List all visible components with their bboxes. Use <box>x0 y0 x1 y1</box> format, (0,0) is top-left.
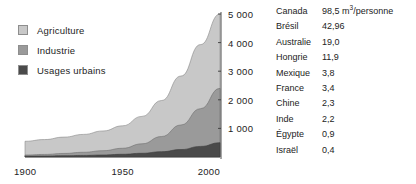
y-axis-label-1000: 1 000 <box>228 123 253 134</box>
figure-root: Agriculture Industrie Usages urbains 1 0… <box>0 0 416 184</box>
legend-item-industrie: Industrie <box>18 42 106 58</box>
table-row: Hongrie11,9 <box>276 52 416 67</box>
legend-label-agriculture: Agriculture <box>37 25 85 36</box>
y-axis-label-4000: 4 000 <box>228 37 253 48</box>
table-cell-value: 42,96 <box>322 21 345 31</box>
table-cell-value: 0,9 <box>322 129 335 139</box>
table-cell-value: 11,9 <box>322 52 339 62</box>
table-cell-country: Hongrie <box>276 52 322 62</box>
table-cell-country: France <box>276 83 322 93</box>
table-cell-value: 0,4 <box>322 145 335 155</box>
y-axis-label-2000: 2 000 <box>228 94 253 105</box>
legend-swatch-usages-urbains <box>18 65 28 75</box>
legend-label-usages-urbains: Usages urbains <box>37 65 106 76</box>
y-axis-label-3000: 3 000 <box>228 66 253 77</box>
table-cell-country: Inde <box>276 114 322 124</box>
chart-legend: Agriculture Industrie Usages urbains <box>18 22 106 82</box>
table-row: Australie19,0 <box>276 37 416 52</box>
x-axis-label-2000: 2000 <box>198 166 220 177</box>
table-row: Canada98,5 m3/personne <box>276 6 416 21</box>
legend-swatch-industrie <box>18 45 28 55</box>
legend-item-agriculture: Agriculture <box>18 22 106 38</box>
x-axis-label-1900: 1900 <box>14 166 36 177</box>
table-cell-value: 19,0 <box>322 37 340 47</box>
table-cell-value: 2,3 <box>322 98 335 108</box>
x-axis-label-1950: 1950 <box>112 166 134 177</box>
table-row: Mexique3,8 <box>276 68 416 83</box>
y-axis-label-5000: 5 000 <box>228 9 253 20</box>
table-cell-country: Mexique <box>276 68 322 78</box>
table-row: Chine2,3 <box>276 98 416 113</box>
table-cell-country: Égypte <box>276 129 322 139</box>
table-cell-country: Canada <box>276 6 322 16</box>
table-cell-value: 3,8 <box>322 68 335 78</box>
table-row: France3,4 <box>276 83 416 98</box>
table-cell-value: 3,4 <box>322 83 335 93</box>
table-cell-country: Chine <box>276 98 322 108</box>
country-water-use-table: Canada98,5 m3/personneBrésil42,96Austral… <box>276 6 416 160</box>
legend-label-industrie: Industrie <box>37 45 75 56</box>
table-row: Brésil42,96 <box>276 21 416 36</box>
table-cell-value: 98,5 m3/personne <box>322 6 393 16</box>
table-cell-value: 2,2 <box>322 114 335 124</box>
stacked-area-chart: Agriculture Industrie Usages urbains 1 0… <box>0 0 268 184</box>
table-cell-country: Brésil <box>276 21 322 31</box>
table-cell-country: Australie <box>276 37 322 47</box>
table-cell-country: Israël <box>276 145 322 155</box>
table-row: Inde2,2 <box>276 114 416 129</box>
table-row: Israël0,4 <box>276 145 416 160</box>
legend-swatch-agriculture <box>18 25 28 35</box>
table-row: Égypte0,9 <box>276 129 416 144</box>
legend-item-usages-urbains: Usages urbains <box>18 62 106 78</box>
